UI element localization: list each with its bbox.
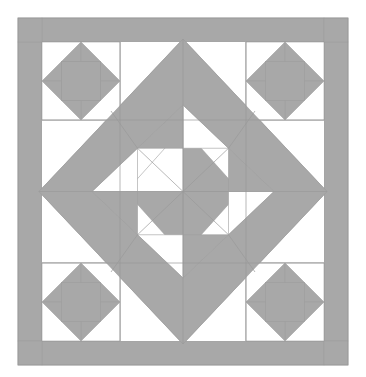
border-corner-square-top-right — [324, 18, 348, 42]
star-center-square-bottom-left — [62, 283, 101, 322]
star-block-bottom-left — [42, 263, 120, 341]
star-block-top-right — [246, 42, 324, 120]
border-strip-right — [324, 42, 348, 341]
quilt-svg — [0, 0, 366, 377]
border-strip-top — [42, 18, 324, 42]
border-strip-left — [18, 42, 42, 341]
star-center-square-top-right — [266, 62, 305, 101]
star-center-square-overlay-top-left — [62, 62, 101, 101]
border-corner-square-bottom-right — [324, 341, 348, 365]
quilt-diagram-canvas — [0, 0, 366, 377]
border-strip-bottom — [42, 341, 324, 365]
star-center-square-bottom-right — [266, 283, 305, 322]
border-corner-square-bottom-left — [18, 341, 42, 365]
star-block-bottom-right — [246, 263, 324, 341]
border-corner-square-top-left — [18, 18, 42, 42]
star-block-top-left — [42, 42, 120, 120]
